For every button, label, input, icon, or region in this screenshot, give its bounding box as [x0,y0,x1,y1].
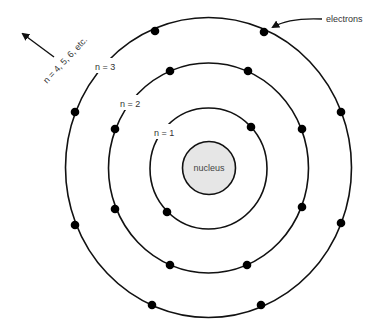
electron [298,203,307,212]
shell-3-label: n = 3 [95,62,115,72]
electron [244,67,253,76]
nucleus: nucleus [183,142,236,195]
outer-shells-annotation: n = 4, 5, 6, etc. [23,34,89,85]
electron [151,27,160,36]
electron [111,205,120,214]
shell-1-label: n = 1 [154,128,174,138]
electron [257,301,266,310]
electron [337,219,346,228]
curved-arrow-icon [273,19,322,27]
electron [247,123,256,132]
electron [148,301,157,310]
nucleus-label: nucleus [193,163,225,173]
arrow-up-left-icon [23,34,54,57]
electron [243,261,252,270]
electron [166,261,175,270]
shell-2-label: n = 2 [120,99,140,109]
electron [163,208,172,217]
electron [166,67,175,76]
bohr-model-diagram: nucleus n = 3 n = 2 n = 1 n = 4, 5, 6, e… [0,0,377,332]
electron [71,108,80,117]
electron [111,125,120,134]
electrons-label: electrons [326,14,363,24]
electron [71,221,80,230]
electron [260,28,269,37]
electron [298,125,307,134]
outer-shells-label: n = 4, 5, 6, etc. [41,35,89,86]
electron [337,108,346,117]
electrons-annotation: electrons [273,14,363,27]
